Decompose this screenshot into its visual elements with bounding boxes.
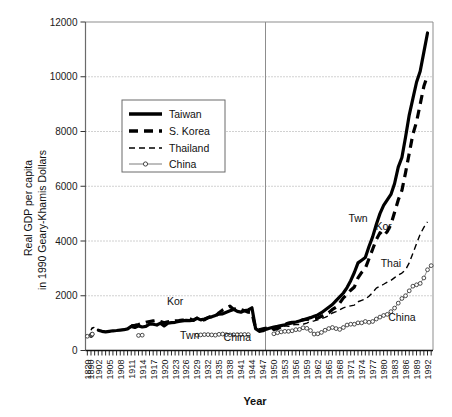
x-tick-label-1980: 1980 [379,360,389,380]
y-axis-title-line1: Real GDP per capita [22,160,34,256]
china-data-point [349,322,353,326]
china-data-point [272,332,276,336]
x-tick-label-1944: 1944 [247,360,257,380]
china-data-point [360,321,364,325]
china-data-point [294,328,298,332]
china-data-point [305,326,309,330]
x-tick-label-1947: 1947 [258,360,268,380]
china-data-point [276,331,280,335]
chart-figure: 020004000600080001000012000 182018901902… [0,0,452,417]
china-data-point [382,314,386,318]
china-data-point [331,326,335,330]
x-tick-label-1932: 1932 [203,360,213,380]
china-data-point [202,333,206,337]
x-tick-label-1929: 1929 [192,360,202,380]
gdp-per-capita-line-chart: 020004000600080001000012000 182018901902… [0,0,452,417]
x-tick-label-1926: 1926 [181,360,191,380]
legend-label-thailand: Thailand [169,142,209,154]
china-data-point [334,327,338,331]
china-data-point [393,306,397,310]
legend-label-s-korea: S. Korea [169,125,210,137]
china-data-point [400,297,404,301]
china-data-point [323,328,327,332]
x-tick-label-1923: 1923 [171,360,181,380]
x-tick-label-1908: 1908 [116,360,126,380]
china-data-point [312,332,316,336]
annotation-twn-1: Twn [180,329,199,341]
china-data-point [90,332,94,336]
y-tick-label-8000: 8000 [55,126,78,137]
x-tick-label-1902: 1902 [94,360,104,380]
china-data-point [378,315,382,319]
legend-label-taiwan: Taiwan [169,108,202,120]
china-data-point [301,326,305,330]
china-data-point [298,328,302,332]
annotation-kor-4: Kor [375,220,392,232]
china-data-point [206,333,210,337]
china-data-point [341,326,345,330]
china-data-point [371,320,375,324]
china-data-point [422,276,426,280]
x-tick-label-1968: 1968 [335,360,345,380]
y-tick-label-2000: 2000 [55,290,78,301]
x-tick-label-1965: 1965 [324,360,334,380]
x-tick-label-1986: 1986 [401,360,411,380]
china-data-point [345,323,349,327]
china-data-point [363,320,367,324]
x-tick-label-1956: 1956 [291,360,301,380]
china-data-point [356,321,360,325]
x-tick-label-1989: 1989 [412,360,422,380]
x-tick-label-1992: 1992 [423,360,433,380]
china-data-point [426,268,430,272]
china-data-point [396,301,400,305]
china-data-point [429,264,433,268]
china-data-point [137,334,141,338]
x-tick-label-1962: 1962 [313,360,323,380]
x-tick-label-1974: 1974 [357,360,367,380]
china-data-point [338,328,342,332]
china-data-point [217,332,221,336]
x-tick-label-1914: 1914 [138,360,148,380]
y-axis-title-line2: in 1990 Geary-Khamis Dollars [36,150,48,290]
china-data-point [367,320,371,324]
x-tick-label-1917: 1917 [149,360,159,380]
x-tick-label-1905: 1905 [105,360,115,380]
legend-marker-china [143,162,147,166]
y-tick-label-6000: 6000 [55,181,78,192]
x-tick-label-1941: 1941 [236,360,246,380]
china-data-point [352,322,356,326]
china-data-point [327,327,331,331]
china-data-point [213,333,217,337]
china-data-point [320,331,324,335]
x-tick-label-1977: 1977 [368,360,378,380]
china-data-point [374,317,378,321]
china-data-point [210,333,214,337]
x-tick-label-1911: 1911 [127,360,137,379]
y-tick-label-10000: 10000 [50,71,78,82]
china-data-point [411,284,415,288]
china-data-point [407,289,411,293]
annotation-china-2: China [224,331,252,343]
annotation-thai-5: Thai [381,257,401,269]
legend-label-china: China [169,158,197,170]
x-tick-label-1953: 1953 [280,360,290,380]
china-data-point [140,333,144,337]
x-tick-label-1971: 1971 [346,360,356,380]
x-axis-minor-ticks [87,351,431,356]
china-data-point [287,329,291,333]
china-data-point [290,329,294,333]
china-data-point [85,334,89,338]
x-tick-label-1983: 1983 [390,360,400,380]
china-data-point [279,330,283,334]
chart-legend: Taiwan S. Korea Thailand China [122,100,225,172]
china-data-point [316,332,320,336]
china-data-point [404,294,408,298]
china-data-point [283,329,287,333]
annotation-china-6: China [388,311,416,323]
x-axis-tick-labels: 1820189019021905190819111914191719201923… [83,360,433,380]
annotation-twn-3: Twn [348,212,367,224]
x-tick-label-1959: 1959 [302,360,312,380]
x-tick-label-1920: 1920 [160,360,170,380]
x-tick-label-1938: 1938 [225,360,235,380]
y-tick-label-12000: 12000 [50,17,78,28]
